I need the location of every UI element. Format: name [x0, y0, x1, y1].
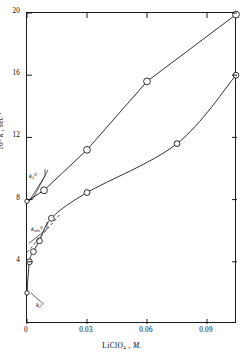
y-tick-label: 4 — [0, 257, 20, 264]
y-tick-label: 20 — [0, 8, 20, 15]
annotation-leaders-layer — [27, 13, 237, 324]
annotation-label-k1-zero: k10 — [29, 173, 36, 180]
y-axis-label-text: 103 k , sec-1 — [0, 112, 5, 150]
x-axis-label: LiClO4 , M. — [0, 341, 244, 350]
x-tick-label: 0.03 — [71, 327, 101, 334]
x-axis-label-text: LiClO4 , M. — [102, 341, 141, 350]
figure: 103 k , sec-1 LiClO4 , M. 48121620 00.03… — [0, 0, 244, 355]
x-tick-label: 0 — [11, 327, 41, 334]
y-tick-label: 8 — [0, 195, 20, 202]
annotation-label-k2-zero: k20 — [36, 302, 43, 309]
x-tick-label: 0.06 — [131, 327, 161, 334]
y-tick-label: 16 — [0, 70, 20, 77]
plot-area: k10kobs0k20 — [26, 12, 236, 323]
annotation-label-kobs-zero: kobs0 — [31, 226, 42, 233]
y-tick-label: 12 — [0, 132, 20, 139]
x-tick-label: 0.09 — [191, 327, 221, 334]
